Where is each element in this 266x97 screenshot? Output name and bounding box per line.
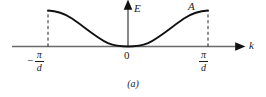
fraction-pi-over-d: π d [35,50,44,73]
fraction-pi-over-d: π d [199,50,208,73]
x-tick-label-negative-pi-over-d: − π d [27,50,44,73]
fraction-numerator: π [36,50,43,61]
fraction-numerator: π [200,50,207,61]
x-tick-label-positive-pi-over-d: π d [199,50,208,73]
curve-direction-arrowhead [181,15,193,20]
figure-caption: (a) [0,78,266,89]
fraction-denominator: d [200,62,207,73]
figure-container: E k A 0 − π d π d (a) [0,0,266,97]
x-axis-label: k [249,40,254,51]
y-axis-label: E [134,3,141,14]
fraction-denominator: d [36,62,43,73]
origin-label: 0 [124,50,130,61]
minus-sign: − [27,50,35,66]
curve-point-label-a: A [188,1,195,12]
